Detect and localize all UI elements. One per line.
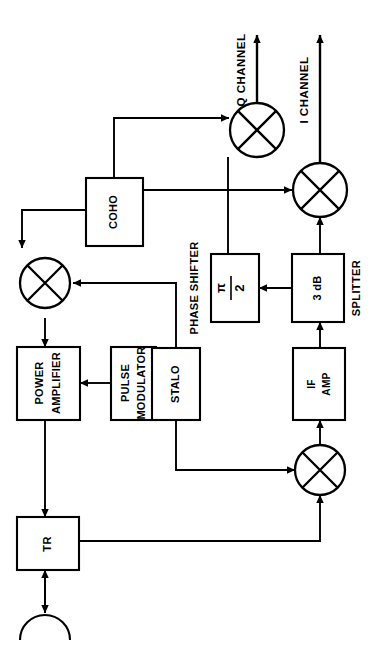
tr-label: TR: [41, 536, 53, 551]
if-amp-label-line1: IF: [306, 379, 317, 388]
block-coho[interactable]: COHO: [86, 178, 143, 246]
block-if-amp[interactable]: IF AMP: [293, 348, 345, 420]
splitter-caption: SPLITTER: [350, 260, 362, 316]
radar-block-diagram: TR POWER AMPLIFIER PULSE MODULATOR STALO…: [0, 0, 380, 652]
block-stalo[interactable]: STALO: [152, 348, 200, 420]
wire-stalo-to-txmixer: [73, 283, 176, 348]
mixer-transmit[interactable]: [20, 258, 70, 308]
block-splitter[interactable]: 3 dB SPLITTER: [292, 254, 362, 322]
pulse-modulator-box[interactable]: [111, 347, 156, 420]
antenna: [20, 615, 70, 640]
i-channel-label: I CHANNEL: [298, 56, 310, 123]
wire-tr-to-rxmixer: [79, 495, 320, 541]
phase-shifter-numerator: π: [213, 283, 228, 293]
wire-stalo-to-rxmixer: [176, 420, 295, 470]
if-amp-label-line2: AMP: [321, 372, 332, 395]
pulse-modulator-label-line1: PULSE: [119, 364, 131, 402]
block-power-amplifier[interactable]: POWER AMPLIFIER: [17, 347, 80, 420]
coho-label: COHO: [107, 195, 119, 229]
splitter-value-label: 3 dB: [311, 275, 323, 300]
power-amplifier-label-line1: POWER: [33, 361, 45, 404]
pulse-modulator-label-line2: MODULATOR: [135, 346, 147, 419]
antenna-dish-arc: [20, 615, 70, 640]
phase-shifter-denominator: 2: [232, 284, 247, 291]
diagram-canvas: TR POWER AMPLIFIER PULSE MODULATOR STALO…: [0, 0, 380, 652]
mixer-i-phase-detector[interactable]: [293, 163, 347, 217]
q-channel-label: Q CHANNEL: [235, 34, 247, 107]
block-phase-shifter[interactable]: π 2 PHASE SHIFTER: [188, 241, 259, 334]
wire-coho-to-txmixer: [22, 210, 86, 248]
mixer-q-phase-detector[interactable]: [230, 103, 284, 157]
mixer-receive[interactable]: [295, 445, 345, 495]
stalo-label: STALO: [169, 365, 181, 403]
if-amp-box[interactable]: [293, 348, 345, 420]
power-amplifier-box[interactable]: [17, 347, 80, 420]
phase-shifter-caption: PHASE SHIFTER: [188, 241, 200, 334]
block-tr[interactable]: TR: [17, 517, 79, 570]
wire-coho-to-qmixer: [114, 118, 229, 178]
power-amplifier-label-line2: AMPLIFIER: [50, 352, 62, 414]
block-pulse-modulator[interactable]: PULSE MODULATOR: [111, 346, 156, 420]
